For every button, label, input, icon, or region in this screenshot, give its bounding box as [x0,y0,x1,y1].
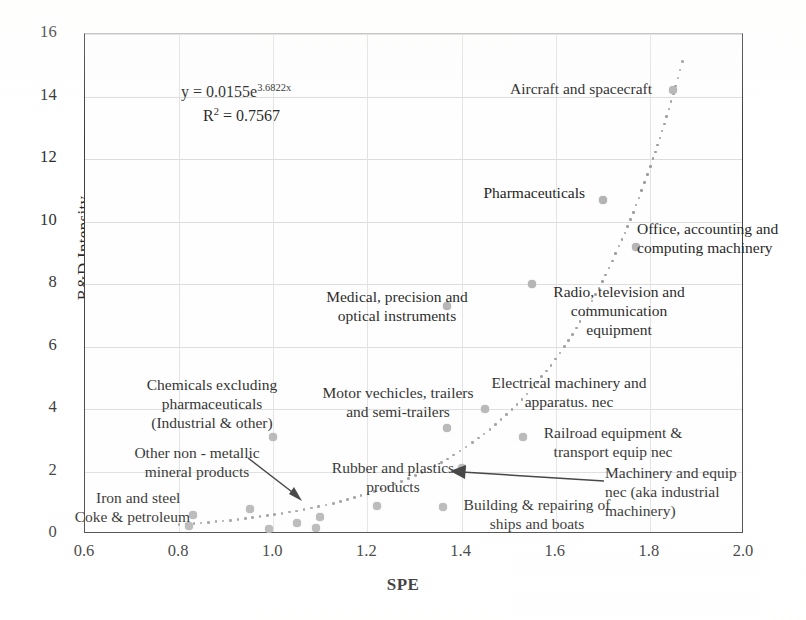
x-tick-label: 0.6 [54,541,114,561]
data-point[interactable] [599,196,607,204]
trendline-dot [681,60,684,63]
othernonmetallic-line-1: Other non - metallic [134,444,259,461]
x-tick-label: 1.8 [619,541,679,561]
radio-line-3: equipment [586,321,651,338]
trendline-dot [654,151,657,154]
medical-line-1: Medical, precision and [326,288,468,305]
trendline-dot [563,345,566,348]
trendline-dot [259,515,262,518]
trendline-dot [215,520,218,523]
arrow-other-non-metallic [246,455,326,515]
motor-line-2: and semi-trailers [346,403,450,420]
trendline-dot [624,232,627,235]
y-tick-label: 16 [11,22,57,42]
trendline-dot [626,225,629,228]
trendline-dot [665,115,668,118]
scatter-chart-figure: R&D Intensity y = 0.0155e3.6822x R2 = 0.… [0,0,806,620]
data-point[interactable] [669,86,677,94]
label-building-repairing-ships-boats: Building & repairing ofships and boats [437,496,637,534]
trendline-dot [656,144,659,147]
trendline-dot [251,516,254,519]
label-radio-television-communication-equipment: Radio, television andcommunicationequipm… [519,283,719,340]
chemicals-line-3: (Industrial & other) [151,414,272,431]
trendline-dot [649,165,652,168]
y-tick-label: 12 [11,147,57,167]
trendline-dot [668,108,671,111]
r-squared-label: R [203,107,214,124]
y-tick-label: 14 [11,85,57,105]
trendline-dot [339,500,342,503]
trendline-dot [677,77,680,80]
r-squared-value: = 0.7567 [223,107,280,124]
trendline-dot [611,260,614,263]
trendline-dot [614,252,617,255]
electrical-line-2: apparatus. nec [525,393,614,410]
trendline-dot [207,521,210,524]
medical-line-2: optical instruments [338,307,456,324]
trendline-dot [494,423,497,426]
data-point[interactable] [189,511,197,519]
label-electrical-machinery-apparatus: Electrical machinery andapparatus. nec [464,374,674,412]
trendline-dot [550,364,553,367]
y-tick-label: 2 [11,460,57,480]
railroad-line-1: Railroad equipment & [544,424,683,441]
x-tick-label: 1.2 [336,541,396,561]
equation-text: y = 0.0155e [181,83,257,100]
data-point[interactable] [312,524,320,532]
data-point[interactable] [373,502,381,510]
trendline-dot [244,517,247,520]
trendline-dot [222,520,225,523]
data-point[interactable] [293,519,301,527]
label-coke-and-petroleum: Coke & petroleum [2,508,190,527]
trendline-dot [452,454,455,457]
trendline-dot [237,518,240,521]
x-tick-label: 1.0 [242,541,302,561]
trendline-equation: y = 0.0155e3.6822x R2 = 0.7567 [181,80,291,127]
office-line-2: computing machinery [637,239,773,256]
r-squared-row: R2 = 0.7567 [203,104,291,128]
trendline-dot [346,498,349,501]
label-medical-precision-optical-instruments: Medical, precision andoptical instrument… [297,288,497,326]
trendline-dot [471,441,474,444]
trendline-dot [659,137,662,140]
label-chemicals-excluding-pharmaceuticals: Chemicals excludingpharmaceuticals(Indus… [112,376,312,433]
electrical-line-1: Electrical machinery and [492,374,647,391]
data-point[interactable] [443,424,451,432]
trendline-dot [638,197,641,200]
gridline-vertical [367,34,368,532]
y-tick-label: 8 [11,272,57,292]
arrow-machinery-and-equip [444,468,614,490]
trendline-dot [353,496,356,499]
trendline-dot [640,189,643,192]
label-railroad-equipment-transport: Railroad equipment &transport equip nec [513,424,713,462]
gridline-horizontal [85,347,742,348]
trendline-dot [229,519,232,522]
x-tick-label: 0.8 [148,541,208,561]
trendline-dot [500,418,503,421]
trendline-dot [663,123,666,126]
equation-exponent: 3.6822x [257,82,291,93]
x-tick-label: 2.0 [713,541,773,561]
trendline-dot [635,204,638,207]
othernonmetallic-line-2: mineral products [145,463,250,480]
trendline-dot [608,267,611,270]
trendline-dot [621,238,624,241]
chemicals-line-1: Chemicals excluding [147,376,277,393]
label-pharmaceuticals: Pharmaceuticals [410,184,585,203]
trendline-dot [604,274,607,277]
y-tick-label: 4 [11,397,57,417]
data-point[interactable] [269,433,277,441]
trendline-dot [618,245,621,248]
rubber-line-1: Rubber and plastics [332,459,454,476]
chemicals-line-2: pharmaceuticals [162,395,263,412]
radio-line-1: Radio, television and [553,283,684,300]
gridline-vertical [462,34,463,532]
building-line-1: Building & repairing of [464,496,611,513]
data-point[interactable] [265,525,273,533]
rubber-line-2: products [366,478,419,495]
trendline-dot [643,181,646,184]
trendline-dot [483,433,486,436]
r-squared-exponent: 2 [214,106,219,117]
x-axis-title: SPE [0,575,806,595]
label-iron-and-steel: Iron and steel [96,489,180,508]
